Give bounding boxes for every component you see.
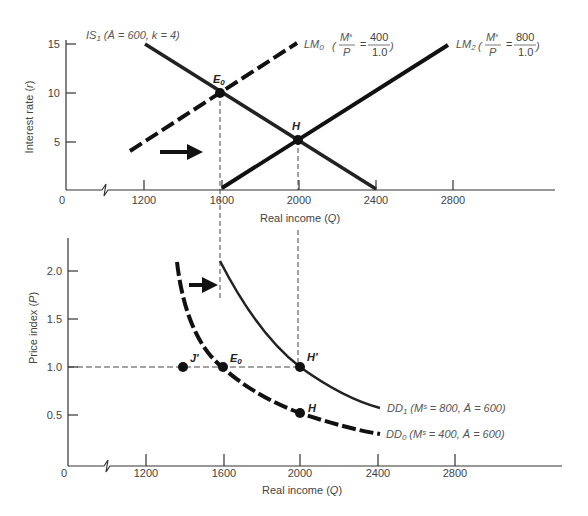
svg-text:(: ( — [332, 40, 337, 52]
svg-text:800: 800 — [516, 31, 534, 43]
point-h-top — [293, 135, 303, 145]
dd1-label: DD1(Mˢ = 800, Ā = 600) — [387, 402, 506, 416]
bottom-y-tick-0.5: 0.5 — [47, 409, 62, 421]
top-x-tick-2400: 2400 — [364, 194, 388, 206]
label-e0-bottom: E0 — [230, 352, 242, 366]
bottom-x-tick-2000: 2000 — [288, 467, 312, 479]
svg-text:1.0: 1.0 — [372, 46, 387, 58]
svg-text:400: 400 — [370, 31, 388, 43]
bottom-y-tick-1.5: 1.5 — [47, 313, 62, 325]
top-chart: 15 10 5 0 1200 1600 2000 2400 2800 Real … — [23, 29, 555, 367]
top-y-tick-5: 5 — [54, 136, 60, 148]
label-h-bottom: H — [308, 402, 317, 414]
bottom-x-axis-title: Real income (Q) — [262, 484, 342, 496]
label-h-top: H — [292, 120, 301, 132]
svg-text:): ) — [388, 40, 394, 52]
svg-text:P: P — [489, 46, 497, 58]
is1-label: IS1(Ā = 600, k = 4) — [86, 29, 180, 43]
top-x-tick-0: 0 — [59, 194, 65, 206]
top-y-tick-10: 10 — [48, 87, 60, 99]
svg-text:Ms: Ms — [340, 31, 352, 43]
svg-text:): ) — [534, 40, 540, 52]
bottom-x-tick-0: 0 — [61, 467, 67, 479]
svg-text:Ms: Ms — [486, 31, 498, 43]
bottom-x-tick-2400: 2400 — [366, 467, 390, 479]
label-j-prime: J' — [190, 352, 199, 364]
lm2-label: LM2 ( Ms P = 800 1.0 ) — [456, 31, 540, 58]
bottom-x-tick-2800: 2800 — [443, 467, 467, 479]
point-h-bottom — [295, 408, 305, 418]
top-axes — [66, 40, 555, 196]
figure: 15 10 5 0 1200 1600 2000 2400 2800 Real … — [0, 0, 588, 516]
top-x-axis-title: Real income (Q) — [260, 212, 340, 224]
bottom-x-tick-1600: 1600 — [212, 467, 236, 479]
bottom-x-tick-1200: 1200 — [134, 467, 158, 479]
top-x-tick-2800: 2800 — [441, 194, 465, 206]
dd0-label: DD0(Mˢ = 400, Ā = 600) — [386, 428, 505, 442]
svg-text:LM0: LM0 — [304, 38, 324, 52]
top-y-tick-15: 15 — [48, 38, 60, 50]
top-x-tick-1200: 1200 — [132, 194, 156, 206]
top-x-tick-2000: 2000 — [287, 194, 311, 206]
lm2-curve — [222, 45, 448, 188]
svg-text:(: ( — [478, 40, 483, 52]
top-x-tick-1600: 1600 — [210, 194, 234, 206]
point-e0-bottom — [218, 362, 228, 372]
point-j-prime — [178, 362, 188, 372]
point-e0-top — [215, 88, 225, 98]
bottom-y-tick-1.0: 1.0 — [47, 361, 62, 373]
lm0-curve — [130, 43, 297, 151]
svg-text:1.0: 1.0 — [518, 46, 533, 58]
label-h-prime: H' — [307, 351, 318, 363]
bottom-chart: 2.0 1.5 1.0 0.5 0 1200 1600 2000 2400 28… — [27, 238, 562, 496]
bottom-y-axis-title: Price index (P) — [27, 292, 39, 364]
svg-text:P: P — [343, 46, 351, 58]
point-h-prime — [295, 362, 305, 372]
svg-text:=: = — [360, 38, 366, 50]
top-y-axis-title: Interest rate (r) — [23, 81, 35, 154]
bottom-y-tick-2.0: 2.0 — [47, 265, 62, 277]
lm0-label: LM0 ( Ms P = 400 1.0 ) — [304, 31, 394, 58]
svg-text:=: = — [506, 38, 512, 50]
label-e0-top: E0 — [213, 73, 225, 87]
svg-text:LM2: LM2 — [456, 38, 476, 52]
